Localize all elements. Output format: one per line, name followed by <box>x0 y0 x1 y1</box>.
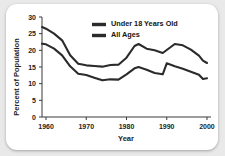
line-chart: Percent of Population 051015202530 19601… <box>6 4 218 150</box>
x-tick-group: 19601970198019902000 <box>38 117 215 130</box>
y-axis-title: Percent of Population <box>12 38 21 116</box>
y-tick-group: 051015202530 <box>28 14 42 121</box>
x-tick-label: 1960 <box>38 123 54 130</box>
chart-card: Percent of Population 051015202530 19601… <box>6 4 218 150</box>
x-tick-label: 2000 <box>199 123 215 130</box>
x-axis-title: Year <box>118 134 134 143</box>
y-tick-label: 20 <box>28 47 36 54</box>
x-tick-label: 1990 <box>159 123 175 130</box>
legend-label: All Ages <box>111 30 140 39</box>
legend-swatch <box>92 23 106 26</box>
y-axis-title-group: Percent of Population <box>12 38 21 116</box>
y-tick-label: 10 <box>28 80 36 87</box>
y-tick-label: 5 <box>32 97 36 104</box>
y-tick-label: 25 <box>28 30 36 37</box>
legend-swatch <box>92 34 106 37</box>
y-tick-label: 15 <box>28 64 36 71</box>
x-axis: 19601970198019902000 Year <box>38 117 215 143</box>
x-tick-label: 1970 <box>78 123 94 130</box>
y-tick-label: 30 <box>28 14 36 21</box>
chart-legend: Under 18 Years OldAll Ages <box>92 19 178 39</box>
y-axis: 051015202530 <box>28 14 42 121</box>
y-tick-label: 0 <box>32 114 36 121</box>
x-tick-label: 1980 <box>119 123 135 130</box>
legend-label: Under 18 Years Old <box>111 19 178 28</box>
